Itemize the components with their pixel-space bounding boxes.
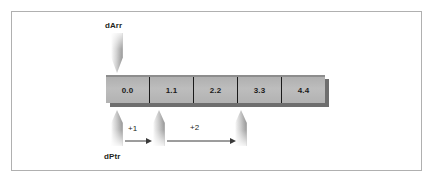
offset-plus1-arrow (125, 137, 153, 145)
array-cell: 0.0 (106, 77, 150, 103)
array-cell-value: 3.3 (254, 86, 266, 95)
array-cell-value: 1.1 (166, 86, 178, 95)
array-cell: 2.2 (194, 77, 238, 103)
down-arrow-darr (108, 33, 126, 73)
array-box: 0.0 1.1 2.2 3.3 4.4 (106, 75, 325, 103)
array-cell-value: 0.0 (122, 86, 134, 95)
up-arrow-dptr-base (108, 110, 126, 146)
offset-plus2-arrow (167, 137, 237, 145)
array-cell-value: 4.4 (298, 86, 310, 95)
array-cell: 1.1 (150, 77, 194, 103)
darr-label: dArr (105, 21, 122, 30)
offset-plus2-label: +2 (190, 123, 199, 132)
array-cell: 3.3 (238, 77, 282, 103)
figure-container: dArr 0. (0, 0, 435, 182)
dptr-label: dPtr (104, 152, 120, 161)
array-cell-value: 2.2 (210, 86, 222, 95)
array-cell: 4.4 (282, 77, 325, 103)
offset-plus1-label: +1 (128, 124, 137, 133)
